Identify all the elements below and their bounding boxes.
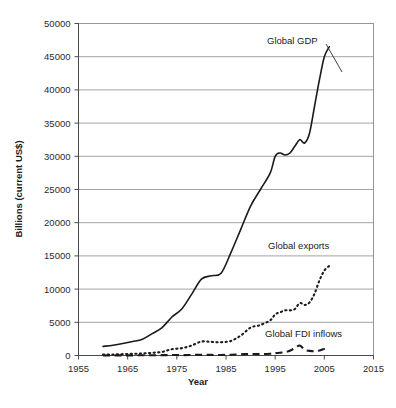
y-tick-label: 0 [65,350,70,361]
annotation-global-exports: Global exports [268,240,330,251]
x-axis-ticks [79,356,374,360]
y-axis-title: Billions (current US$) [13,140,24,237]
x-axis-title: Year [188,376,208,387]
x-axis-tick-labels: 1955196519751985199520052015 [68,363,384,374]
annotation-global-fdi-inflows: Global FDI inflows [265,328,342,339]
y-tick-label: 10000 [44,284,70,295]
x-tick-label: 1965 [117,363,138,374]
y-tick-label: 45000 [44,51,70,62]
gridlines [79,57,374,323]
y-tick-label: 25000 [44,184,70,195]
y-tick-label: 30000 [44,151,70,162]
series-line-global-gdp [103,47,329,347]
x-tick-label: 1975 [166,363,187,374]
y-tick-label: 20000 [44,217,70,228]
x-tick-label: 2005 [314,363,335,374]
x-tick-label: 1995 [265,363,286,374]
y-tick-label: 50000 [44,18,70,29]
gdp-label-leader-line [326,44,342,72]
y-axis-ticks [75,24,79,356]
annotation-global-gdp: Global GDP [267,35,318,46]
y-tick-label: 40000 [44,84,70,95]
x-tick-label: 2015 [363,363,384,374]
y-tick-label: 35000 [44,118,70,129]
y-axis-tick-labels: 0500010000150002000025000300003500040000… [44,18,70,361]
x-tick-label: 1955 [68,363,89,374]
y-tick-label: 5000 [49,317,70,328]
y-tick-label: 15000 [44,250,70,261]
chart-canvas: 0500010000150002000025000300003500040000… [0,0,396,408]
x-tick-label: 1985 [215,363,236,374]
chart-container: 0500010000150002000025000300003500040000… [0,0,396,408]
